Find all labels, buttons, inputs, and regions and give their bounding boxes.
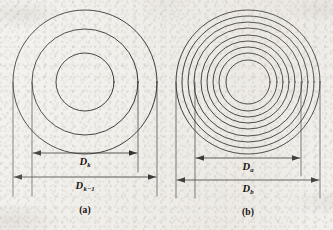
panel-a-dim-outer <box>14 174 156 180</box>
arrow-left-inner <box>196 155 204 161</box>
arrow-right-outer <box>311 177 319 183</box>
dim-label-dk-main: D <box>79 156 87 167</box>
ring-4 <box>194 28 302 136</box>
dim-label-db: Db <box>242 183 253 194</box>
dim-label-db-sub: b <box>250 188 254 195</box>
dim-label-db-main: D <box>242 183 250 194</box>
ring-inner <box>56 53 114 111</box>
dim-label-dk-minus-1-main: D <box>76 180 84 191</box>
panel-caption-a: (a) <box>79 205 90 215</box>
figure-canvas: Dk Dk−1 (a) Da Db (b) <box>0 0 333 230</box>
panel-b-dim-inner <box>196 155 300 161</box>
arrow-right-inner <box>292 155 300 161</box>
arrow-left-outer <box>177 177 185 183</box>
dim-label-dk-sub: k <box>87 161 91 168</box>
ring-7 <box>213 47 283 117</box>
panel-a-dim-inner <box>33 150 137 156</box>
arrow-left-outer <box>14 174 22 180</box>
panel-b-dim-outer <box>177 177 319 183</box>
panel-a-rings <box>13 10 157 154</box>
panel-caption-b: (b) <box>242 207 254 217</box>
dim-label-da: Da <box>242 161 253 172</box>
ring-9 <box>226 60 270 104</box>
arrow-right-outer <box>148 174 156 180</box>
arrow-right-inner <box>129 150 137 156</box>
ring-middle <box>32 29 138 135</box>
ring-3 <box>188 22 308 142</box>
figure-lineart <box>0 0 333 230</box>
arrow-left-inner <box>33 150 41 156</box>
ring-5 <box>201 35 295 129</box>
panel-a-group <box>13 10 157 196</box>
dim-label-dk-minus-1: Dk−1 <box>76 180 95 191</box>
panel-b-rings <box>176 10 320 154</box>
ring-outer <box>13 10 157 154</box>
dim-label-dk-minus-1-sub: k−1 <box>83 185 94 192</box>
dim-label-da-main: D <box>242 161 250 172</box>
dim-label-dk: Dk <box>79 156 90 167</box>
panel-b-extension-lines <box>176 82 320 198</box>
dim-label-da-sub: a <box>250 166 254 173</box>
ring-2 <box>182 16 314 148</box>
ring-1 <box>176 10 320 154</box>
ring-8 <box>219 53 277 111</box>
